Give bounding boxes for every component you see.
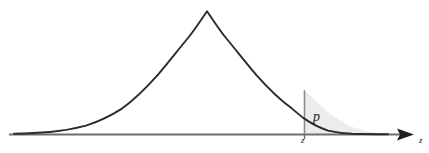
z-axis-label: z — [419, 136, 423, 145]
normal-curve-figure: p z z — [0, 0, 429, 153]
tail-probability-label: p — [313, 110, 320, 124]
z-boundary-label: z — [301, 136, 305, 145]
bell-curve-plot — [0, 0, 429, 153]
